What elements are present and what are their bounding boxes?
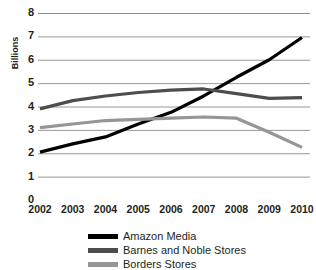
legend-item[interactable]: Amazon Media bbox=[88, 229, 308, 243]
legend-swatch-icon bbox=[88, 248, 118, 253]
y-axis-tick-label: 8 bbox=[20, 7, 34, 18]
plot-svg bbox=[38, 13, 310, 200]
x-axis-tick-label: 2003 bbox=[61, 203, 84, 216]
y-axis-tick-label: 1 bbox=[20, 171, 34, 182]
y-axis-tick-label: 6 bbox=[20, 54, 34, 65]
legend-label: Amazon Media bbox=[123, 231, 196, 242]
legend-item[interactable]: Barnes and Noble Stores bbox=[88, 243, 308, 257]
legend-swatch-icon bbox=[88, 234, 118, 239]
legend-swatch-icon bbox=[88, 262, 118, 267]
y-axis-tick-label: 5 bbox=[20, 77, 34, 88]
gridlines bbox=[38, 14, 310, 201]
series-line bbox=[40, 89, 302, 109]
line-chart: Billions 876543210 200220032004200520062… bbox=[0, 0, 316, 270]
y-axis-tick-label: 2 bbox=[20, 147, 34, 158]
chart-legend: Amazon MediaBarnes and Noble StoresBorde… bbox=[88, 229, 308, 270]
plot-area bbox=[38, 13, 310, 200]
x-axis-tick-label: 2008 bbox=[225, 203, 248, 216]
x-axis-tick-labels: 200220032004200520062007200820092010 bbox=[38, 203, 310, 219]
x-axis-tick-label: 2002 bbox=[28, 203, 51, 216]
y-axis-tick-label: 7 bbox=[20, 30, 34, 41]
x-axis-tick-label: 2005 bbox=[127, 203, 150, 216]
series-lines bbox=[40, 38, 302, 153]
legend-label: Borders Stores bbox=[123, 259, 196, 270]
x-axis-tick-label: 2010 bbox=[290, 203, 313, 216]
legend-label: Barnes and Noble Stores bbox=[123, 245, 246, 256]
y-axis-tick-label: 4 bbox=[20, 101, 34, 112]
x-axis-tick-label: 2009 bbox=[258, 203, 281, 216]
y-axis-tick-label: 3 bbox=[20, 124, 34, 135]
y-axis-tick-labels: 876543210 bbox=[18, 0, 34, 270]
x-axis-tick-label: 2006 bbox=[159, 203, 182, 216]
series-line bbox=[40, 38, 302, 153]
legend-item[interactable]: Borders Stores bbox=[88, 257, 308, 270]
x-axis-tick-label: 2007 bbox=[192, 203, 215, 216]
x-axis-tick-label: 2004 bbox=[94, 203, 117, 216]
